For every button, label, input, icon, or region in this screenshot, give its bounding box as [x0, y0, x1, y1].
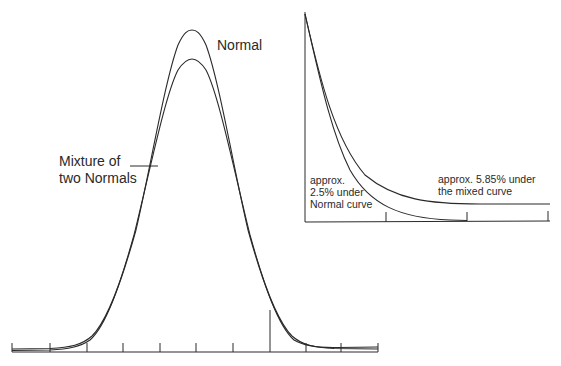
inset-normal-label-line2: 2.5% under [310, 186, 364, 198]
mixture-label-line2: two Normals [59, 171, 137, 185]
mixture-label-line1: Mixture of [59, 154, 120, 168]
normal-label: Normal [217, 38, 262, 52]
inset-normal-label-line3: Normal curve [310, 198, 372, 210]
inset-mixed-label-line2: the mixed curve [438, 185, 512, 197]
inset-normal-label-line1: approx. [310, 174, 345, 186]
inset-mixed-label-line1: approx. 5.85% under [438, 173, 535, 185]
